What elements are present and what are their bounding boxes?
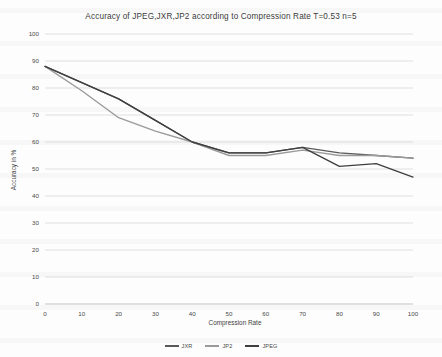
chart-svg: 0102030405060708090100 01020304050607080… bbox=[0, 0, 442, 357]
series-line-jpeg bbox=[45, 66, 413, 177]
y-tick-label: 90 bbox=[32, 57, 39, 64]
legend-label: JP2 bbox=[222, 343, 232, 349]
y-tick-label: 30 bbox=[32, 219, 39, 226]
y-tick-label: 40 bbox=[32, 192, 39, 199]
y-tick-label: 60 bbox=[32, 138, 39, 145]
chart-legend: JXRJP2JPEG bbox=[0, 343, 442, 349]
legend-swatch-icon bbox=[205, 345, 219, 347]
data-series bbox=[45, 66, 413, 177]
y-tick-label: 0 bbox=[36, 300, 40, 307]
y-tick-label: 10 bbox=[32, 273, 39, 280]
gridlines bbox=[45, 34, 413, 304]
x-tick-label: 10 bbox=[78, 310, 85, 317]
x-tick-label: 50 bbox=[226, 310, 233, 317]
legend-item-jxr[interactable]: JXR bbox=[165, 343, 193, 349]
legend-swatch-icon bbox=[165, 345, 179, 347]
x-tick-label: 60 bbox=[262, 310, 269, 317]
x-tick-label: 0 bbox=[43, 310, 47, 317]
x-tick-label: 90 bbox=[373, 310, 380, 317]
y-tick-label: 80 bbox=[32, 84, 39, 91]
plot-area: 0102030405060708090100 01020304050607080… bbox=[0, 0, 442, 357]
x-tick-label: 20 bbox=[115, 310, 122, 317]
legend-item-jpeg[interactable]: JPEG bbox=[245, 343, 277, 349]
x-tick-label: 100 bbox=[408, 310, 419, 317]
y-tick-label: 70 bbox=[32, 111, 39, 118]
series-line-jp2 bbox=[45, 66, 413, 158]
y-tick-label: 20 bbox=[32, 246, 39, 253]
y-axis-title: Accuracy in % bbox=[10, 149, 18, 190]
x-tick-label: 30 bbox=[152, 310, 159, 317]
y-tick-label: 50 bbox=[32, 165, 39, 172]
legend-swatch-icon bbox=[245, 345, 259, 347]
x-axis-title: Compression Rate bbox=[209, 319, 262, 327]
x-tick-label: 70 bbox=[299, 310, 306, 317]
y-tick-labels: 0102030405060708090100 bbox=[29, 30, 40, 307]
legend-label: JXR bbox=[182, 343, 193, 349]
x-tick-label: 80 bbox=[336, 310, 343, 317]
series-line-jxr bbox=[45, 66, 413, 158]
legend-item-jp2[interactable]: JP2 bbox=[205, 343, 232, 349]
legend-label: JPEG bbox=[262, 343, 277, 349]
x-tick-labels: 0102030405060708090100 bbox=[43, 310, 418, 317]
chart-screenshot: Accuracy of JPEG,JXR,JP2 according to Co… bbox=[0, 0, 442, 357]
x-tick-label: 40 bbox=[189, 310, 196, 317]
y-tick-label: 100 bbox=[29, 30, 40, 37]
